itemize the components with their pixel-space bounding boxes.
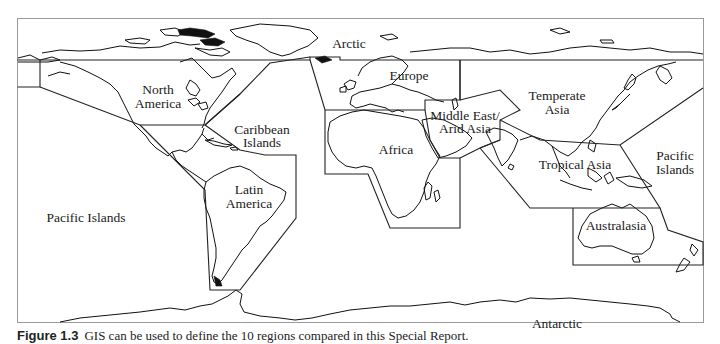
label-latin-america-2: America — [226, 196, 272, 211]
label-pacific-islands-east: Pacific — [656, 148, 693, 163]
label-middle-east-2: Arid Asia — [439, 121, 491, 136]
label-africa: Africa — [379, 142, 413, 157]
label-antarctic: Antarctic — [532, 316, 582, 331]
label-temperate-asia: Temperate — [529, 88, 586, 103]
label-australasia: Australasia — [586, 218, 647, 233]
figure-number: Figure 1.3 — [17, 328, 78, 343]
label-arctic: Arctic — [332, 36, 366, 51]
label-caribbean-islands-2: Islands — [243, 135, 281, 150]
label-temperate-asia-2: Asia — [545, 102, 570, 117]
boundary-north-america — [18, 60, 41, 87]
label-latin-america: Latin — [235, 182, 264, 197]
label-pacific-islands-east-2: Islands — [656, 162, 694, 177]
coastlines — [18, 24, 703, 322]
label-north-america-2: America — [135, 96, 181, 111]
label-europe: Europe — [390, 68, 429, 83]
label-tropical-asia: Tropical Asia — [539, 157, 612, 172]
region-labels: Arctic North America Europe Temperate As… — [46, 36, 694, 331]
figure-caption: Figure 1.3GIS can be used to define the … — [17, 328, 469, 344]
label-pacific-islands-west: Pacific Islands — [46, 210, 125, 225]
label-north-america: North — [142, 82, 174, 97]
caption-text: GIS can be used to define the 10 regions… — [84, 328, 468, 343]
